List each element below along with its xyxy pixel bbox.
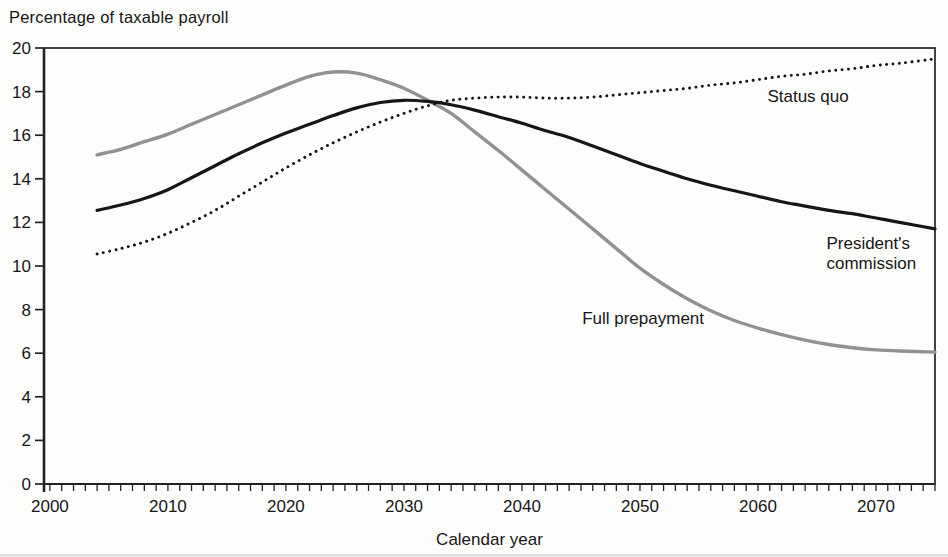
y-tick-label: 14 <box>12 170 31 189</box>
series-label-full-prepayment: Full prepayment <box>582 309 704 328</box>
y-tick-label: 18 <box>12 83 31 102</box>
y-tick-label: 10 <box>12 257 31 276</box>
y-tick-label: 16 <box>12 126 31 145</box>
x-tick-label: 2050 <box>621 497 659 516</box>
x-tick-label: 2010 <box>149 497 187 516</box>
payroll-chart-figure: Percentage of taxable payroll 0246810121… <box>0 0 948 557</box>
plot-area: 0246810121416182020002010202020302040205… <box>0 0 948 557</box>
x-axis-label: Calendar year <box>44 530 935 550</box>
x-tick-label: 2060 <box>739 497 777 516</box>
x-tick-label: 2040 <box>503 497 541 516</box>
x-tick-label: 2000 <box>31 497 69 516</box>
series-label-president-s-commission: President's <box>826 234 910 253</box>
x-tick-label: 2020 <box>267 497 305 516</box>
x-tick-label: 2070 <box>857 497 895 516</box>
x-tick-label: 2030 <box>385 497 423 516</box>
series-label-president-s-commission: commission <box>826 254 916 273</box>
y-tick-label: 2 <box>22 431 31 450</box>
y-tick-label: 8 <box>22 301 31 320</box>
series-line-full-prepayment <box>97 72 935 352</box>
y-tick-label: 12 <box>12 213 31 232</box>
y-tick-label: 6 <box>22 344 31 363</box>
y-tick-label: 0 <box>22 475 31 494</box>
series-label-status-quo: Status quo <box>767 87 848 106</box>
y-tick-label: 20 <box>12 39 31 58</box>
y-tick-label: 4 <box>22 388 31 407</box>
